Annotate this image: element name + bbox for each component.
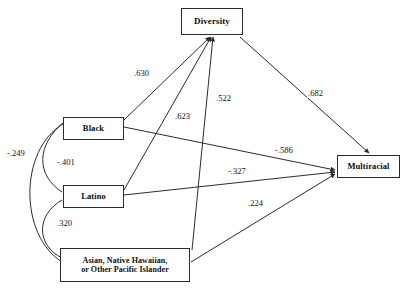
edge-label-latino-multiracial: -.327	[227, 167, 247, 176]
edge-label-black-diversity: .630	[133, 69, 150, 78]
corr-label-black-latino: -.401	[56, 158, 76, 167]
edge-diversity-multiracial	[240, 37, 369, 153]
node-multiracial-label: Multiracial	[347, 162, 389, 172]
edge-asian-multiracial	[191, 174, 335, 262]
edge-black-multiracial	[124, 127, 335, 170]
edge-latino-diversity	[124, 37, 211, 190]
edge-black-diversity	[124, 37, 210, 120]
edge-label-latino-diversity: .623	[174, 112, 191, 121]
node-black-label: Black	[83, 124, 104, 134]
edge-label-asian-diversity: .522	[215, 94, 232, 103]
node-latino-label: Latino	[81, 192, 106, 202]
edge-label-diversity-multiracial: .682	[307, 89, 324, 98]
corr-black-asian	[30, 124, 63, 262]
node-latino[interactable]: Latino	[63, 185, 124, 208]
node-multiracial[interactable]: Multiracial	[337, 155, 400, 178]
path-diagram: Diversity Black Latino Asian, Native Haw…	[0, 0, 410, 292]
edge-label-black-multiracial: -.586	[274, 146, 294, 155]
node-asian-nhpi[interactable]: Asian, Native Hawaiian, or Other Pacific…	[60, 248, 190, 282]
node-black[interactable]: Black	[63, 117, 124, 140]
corr-label-black-asian: -.249	[6, 149, 26, 158]
corr-label-latino-asian: .320	[56, 219, 73, 228]
edge-label-asian-multiracial: .224	[247, 199, 264, 208]
node-diversity-label: Diversity	[194, 16, 230, 26]
node-asian-nhpi-label: Asian, Native Hawaiian, or Other Pacific…	[81, 256, 169, 274]
node-diversity[interactable]: Diversity	[181, 8, 243, 35]
